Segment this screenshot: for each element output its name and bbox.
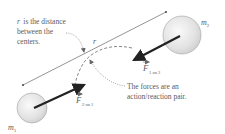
r-label: r [93, 37, 97, 46]
distance-endpoint-m1 [22, 84, 24, 86]
pair-note-line-2: action/reaction pair. [127, 92, 187, 101]
pair-note-line-1: The forces are an [127, 82, 179, 91]
mass-1-sphere [17, 93, 47, 123]
svg-text:F: F [142, 63, 149, 73]
distance-note-line-2: between the [17, 27, 54, 36]
mass-2-sphere [163, 16, 201, 54]
distance-note: r is the distance between the centers. [17, 17, 66, 46]
svg-text:F: F [75, 95, 82, 105]
distance-note-var: r [17, 17, 20, 26]
m1-label: m1 [8, 123, 17, 133]
svg-text:1 on 2: 1 on 2 [149, 70, 160, 75]
distance-note-line-3: centers. [17, 37, 40, 46]
gravity-diagram: r is the distance between the centers. r… [0, 0, 225, 134]
svg-text:r is the distance: r is the distance [17, 17, 66, 26]
force-2-on-1-label: F 2 on 1 [75, 94, 93, 107]
distance-endpoint-m2 [165, 11, 167, 13]
pair-note-pointer [90, 60, 125, 86]
dashed-arc [74, 46, 132, 88]
force-1-on-2-label: F 1 on 2 [142, 62, 160, 75]
m2-label: m2 [201, 18, 210, 28]
distance-note-pointer [66, 33, 84, 52]
pair-note: The forces are an action/reaction pair. [127, 82, 187, 101]
svg-text:2 on 1: 2 on 1 [82, 102, 93, 107]
